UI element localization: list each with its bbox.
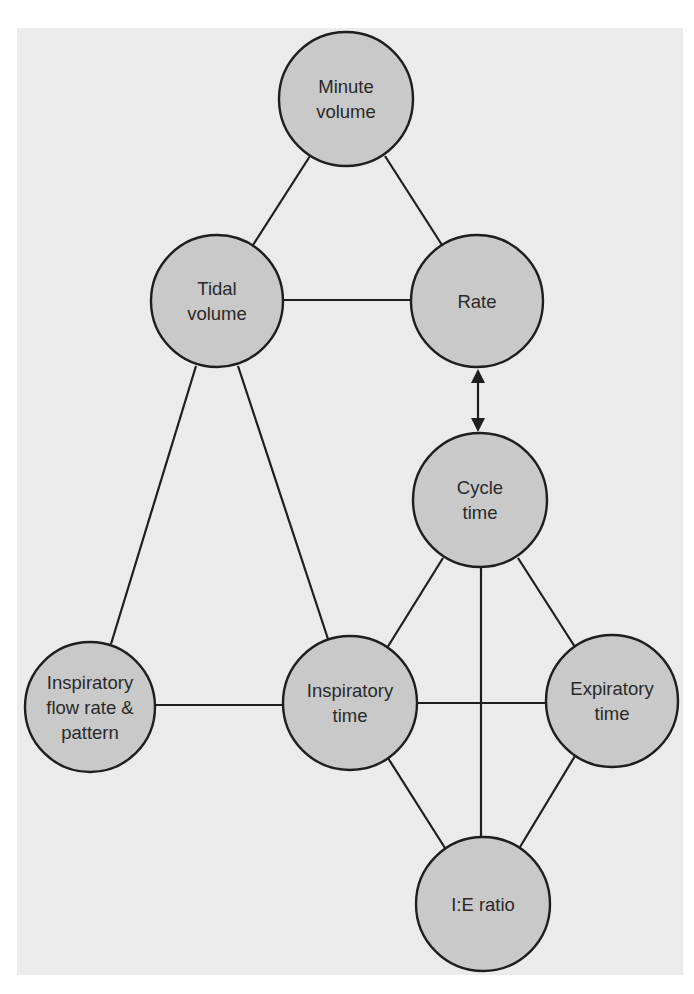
node-cycle-time: Cycle time xyxy=(413,433,547,567)
node-tidal-volume: Tidal volume xyxy=(151,235,283,367)
edge-inspiratory-time-ie-ratio xyxy=(388,758,445,848)
node-label-cycle-time: Cycle time xyxy=(457,475,503,525)
arrowhead-up-icon xyxy=(471,369,485,383)
node-rate: Rate xyxy=(411,235,543,367)
node-inspiratory-time: Inspiratory time xyxy=(283,636,417,770)
node-minute-volume: Minute volume xyxy=(279,32,413,166)
node-ie-ratio: I:E ratio xyxy=(416,837,550,971)
node-label-inspiratory-time: Inspiratory time xyxy=(307,678,393,728)
node-label-tidal-volume: Tidal volume xyxy=(187,276,247,326)
node-label-ie-ratio: I:E ratio xyxy=(451,892,515,917)
node-label-rate: Rate xyxy=(457,289,496,314)
arrowhead-down-icon xyxy=(471,418,485,432)
edge-minute-volume-rate xyxy=(385,156,442,245)
node-inspiratory-flow: Inspiratory flow rate & pattern xyxy=(25,642,155,772)
node-expiratory-time: Expiratory time xyxy=(546,635,678,767)
node-label-inspiratory-flow: Inspiratory flow rate & pattern xyxy=(46,670,133,745)
edge-minute-volume-tidal-volume xyxy=(253,156,310,245)
edge-tidal-volume-inspiratory-time xyxy=(238,366,328,639)
edge-expiratory-time-ie-ratio xyxy=(520,756,575,847)
double-arrow-rate-cycle-time xyxy=(471,369,485,432)
edge-cycle-time-inspiratory-time xyxy=(387,558,443,648)
node-label-minute-volume: Minute volume xyxy=(316,74,376,124)
edge-cycle-time-expiratory-time xyxy=(518,558,575,647)
node-label-expiratory-time: Expiratory time xyxy=(570,676,653,726)
edge-tidal-volume-inspiratory-flow xyxy=(111,366,196,644)
